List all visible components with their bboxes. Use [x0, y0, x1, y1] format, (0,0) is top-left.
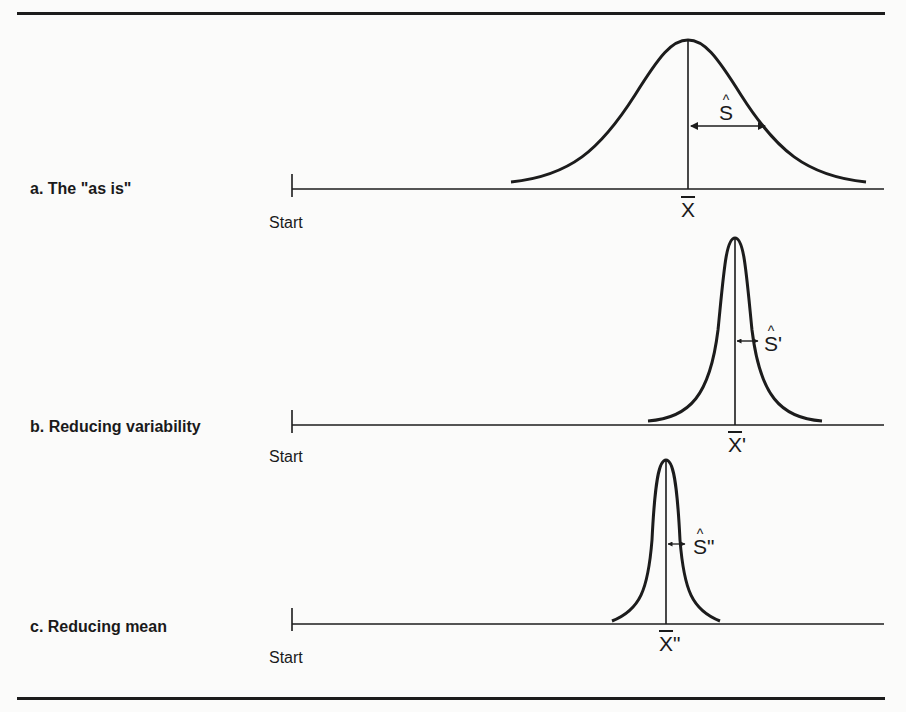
x-bar-symbol: X — [728, 433, 742, 456]
distribution-diagram — [0, 0, 906, 712]
panel-c-mean-label: X" — [659, 633, 680, 654]
panel-a-start-label: Start — [269, 214, 303, 232]
x-bar-symbol: X — [659, 632, 673, 655]
hat-icon: ^ — [768, 324, 775, 338]
x-bar-symbol: X — [681, 198, 695, 221]
panel-a-graphic — [292, 40, 884, 197]
panel-b-label: b. Reducing variability — [30, 418, 201, 436]
panel-c-label: c. Reducing mean — [30, 618, 167, 636]
panel-c-sd-label: ^S" — [693, 536, 714, 557]
hat-icon: ^ — [697, 527, 704, 541]
panel-c-graphic — [292, 460, 884, 631]
panel-b-graphic — [292, 238, 884, 433]
panel-b-sd-label: ^S' — [764, 333, 782, 354]
panel-b-mean-label: X' — [728, 434, 746, 455]
panel-a-label: a. The "as is" — [30, 180, 131, 198]
panel-a-sd-label: ^S — [719, 102, 733, 123]
panel-c-start-label: Start — [269, 649, 303, 667]
panel-a-mean-label: X — [681, 199, 695, 220]
hat-icon: ^ — [723, 93, 730, 107]
panel-b-start-label: Start — [269, 448, 303, 466]
